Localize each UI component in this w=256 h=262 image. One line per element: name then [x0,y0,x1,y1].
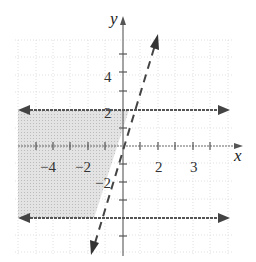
y-tick-label-minus-2: −2 [95,175,111,191]
x-tick-label-2: 2 [155,159,163,175]
y-axis-label: y [108,9,118,28]
y-axis-arrow-icon [120,16,126,25]
y-tick-label-2: 2 [104,105,112,121]
x-tick-label-minus-2: −2 [75,159,91,175]
arrow-down-icon [90,240,99,255]
x-tick-label-4: 3 [190,159,198,175]
coordinate-graph: y x −4 −2 2 3 4 2 −2 [0,0,256,262]
shaded-region [18,110,129,218]
x-axis-label: x [233,146,242,165]
y-tick-label-4: 4 [104,69,112,85]
arrow-up-icon [150,34,159,50]
x-tick-label-minus-4: −4 [40,159,56,175]
